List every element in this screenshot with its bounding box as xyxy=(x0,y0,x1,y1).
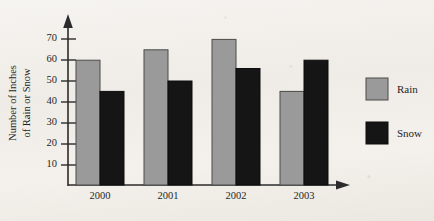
y-axis xyxy=(63,14,73,186)
bar-rain-2002[interactable] xyxy=(212,39,236,185)
chart-canvas: 70 60 50 40 30 20 10 Number of Inches of… xyxy=(0,0,434,221)
bar-chart: 70 60 50 40 30 20 10 Number of Inches of… xyxy=(0,0,434,221)
bar-rain-2000[interactable] xyxy=(76,60,100,185)
y-tick-label-70: 70 xyxy=(47,32,58,43)
x-label-2003: 2003 xyxy=(294,190,315,201)
bar-group-2000 xyxy=(76,60,124,185)
legend-item-rain[interactable]: Rain xyxy=(366,78,418,100)
legend-item-snow[interactable]: Snow xyxy=(366,122,422,144)
y-tick-label-40: 40 xyxy=(47,95,58,106)
bar-group-2003 xyxy=(280,60,328,185)
x-axis-arrow-icon xyxy=(336,181,350,190)
y-axis-title-line1: Number of Inches xyxy=(7,65,18,141)
x-label-2001: 2001 xyxy=(158,190,179,201)
legend-swatch-snow xyxy=(366,122,388,144)
bar-snow-2000[interactable] xyxy=(100,91,124,185)
y-tick-label-20: 20 xyxy=(47,137,58,148)
y-axis-title-line2: of Rain or Snow xyxy=(21,68,32,138)
x-label-2000: 2000 xyxy=(90,190,111,201)
legend-label-snow: Snow xyxy=(397,127,422,139)
x-label-2002: 2002 xyxy=(226,190,247,201)
y-tick-label-60: 60 xyxy=(47,53,58,64)
y-axis-tick-labels: 70 60 50 40 30 20 10 xyxy=(47,32,58,169)
bar-snow-2002[interactable] xyxy=(236,69,260,186)
legend-label-rain: Rain xyxy=(397,83,418,95)
y-axis-title: Number of Inches of Rain or Snow xyxy=(7,65,32,141)
bar-snow-2001[interactable] xyxy=(168,81,192,185)
bar-snow-2003[interactable] xyxy=(304,60,328,185)
x-axis-category-labels: 2000 2001 2002 2003 xyxy=(90,190,315,201)
bar-group-2002 xyxy=(212,39,260,185)
y-axis-arrow-icon xyxy=(63,14,73,28)
legend-swatch-rain xyxy=(366,78,388,100)
bar-rain-2001[interactable] xyxy=(144,50,168,185)
y-tick-label-10: 10 xyxy=(47,158,58,169)
chart-legend: Rain Snow xyxy=(366,78,422,144)
y-tick-label-30: 30 xyxy=(47,116,58,127)
bar-rain-2003[interactable] xyxy=(280,91,304,185)
y-tick-label-50: 50 xyxy=(47,74,58,85)
bar-group-2001 xyxy=(144,50,192,185)
